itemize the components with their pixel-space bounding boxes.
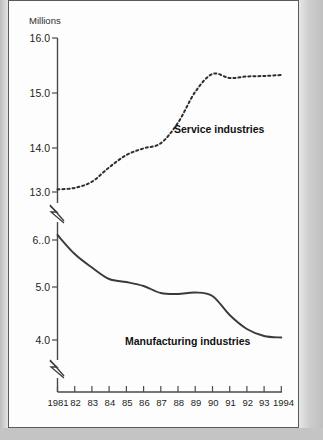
x-tick-label-83: 83 [87,397,98,408]
y-tick-label-4: 4.0 [35,334,50,346]
x-tick-label-87: 87 [156,397,167,408]
y-tick-label-5: 5.0 [35,281,50,293]
x-tick-label-88: 88 [174,397,185,408]
axis-break-lower-icon [50,360,64,378]
x-tick-label-89: 89 [191,397,202,408]
y-tick-marks-lower [52,240,58,340]
y-tick-label-6: 6..0 [32,234,50,246]
x-tick-label-91: 91 [225,397,236,408]
manufacturing-industries-label: Manufacturing industries [125,335,251,347]
x-tick-label-1994: 1994 [273,397,294,408]
x-tick-label-85: 85 [122,397,133,408]
employment-line-chart: Millions 16.0 15.0 14.0 13.0 6..0 5.0 4.… [0,0,323,440]
manufacturing-industries-line [58,235,282,338]
axis-break-upper-icon [50,205,64,223]
y-tick-label-14: 14.0 [30,142,51,154]
x-tick-label-90: 90 [208,397,219,408]
x-tick-label-82: 82 [70,397,81,408]
x-tick-label-93: 93 [259,397,270,408]
y-tick-label-16: 16.0 [30,32,51,44]
x-tick-label-84: 84 [105,397,116,408]
y-tick-label-15: 15.0 [30,87,51,99]
chart-page: Millions 16.0 15.0 14.0 13.0 6..0 5.0 4.… [0,0,323,440]
x-tick-label-86: 86 [139,397,150,408]
service-industries-label: Service industries [174,123,265,135]
y-axis-unit-label: Millions [29,15,61,26]
y-tick-label-13: 13.0 [30,186,51,198]
y-tick-marks-upper [52,38,58,192]
x-tick-label-92: 92 [242,397,253,408]
x-tick-marks [58,386,282,392]
x-tick-label-1981: 1981 [47,397,68,408]
